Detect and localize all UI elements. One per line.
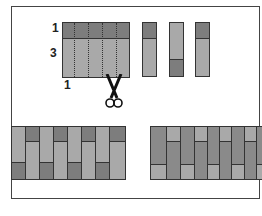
ratio-label-middle: 3 xyxy=(50,46,57,60)
ratio-label-top: 1 xyxy=(52,21,59,35)
seam-line xyxy=(63,38,129,39)
cut-line xyxy=(88,23,89,77)
ratio-label-bottom: 1 xyxy=(64,78,71,92)
dark-band xyxy=(63,23,129,38)
cut-line xyxy=(116,23,117,77)
pieced-band-alternating xyxy=(11,126,126,180)
cut-line xyxy=(102,23,103,77)
fabric-rectangle xyxy=(62,22,130,78)
scissors-icon xyxy=(103,74,125,110)
strip-3 xyxy=(195,22,210,77)
strip-2 xyxy=(169,22,184,77)
cut-line xyxy=(74,23,75,77)
strip-1 xyxy=(142,22,157,77)
pieced-band-offset xyxy=(150,126,262,180)
